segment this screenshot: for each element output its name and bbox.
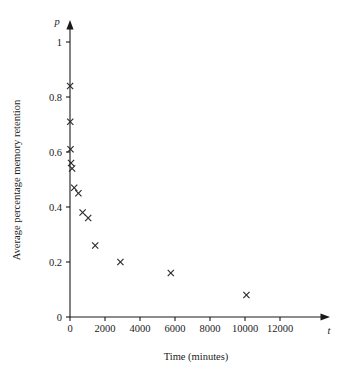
y-tick-label: 0.4 [49,202,63,213]
scatter-plot: p t 00.20.40.60.81 020004000600080001000… [0,0,339,376]
x-tick-label: 4000 [130,323,151,334]
y-axis-ticks: 00.20.40.60.81 [49,37,70,323]
data-point [117,259,123,265]
data-point-group [67,83,250,298]
data-point [243,292,249,298]
data-point [71,185,77,191]
y-tick-label: 0.8 [49,92,62,103]
x-tick-label: 8000 [200,323,221,334]
data-point [68,160,74,166]
data-point [75,190,81,196]
y-tick-label: 0.2 [49,257,62,268]
data-point [168,270,174,276]
y-tick-label: 0 [57,312,62,323]
x-tick-label: 2000 [95,323,116,334]
x-axis-title: Time (minutes) [164,351,229,363]
x-axis-symbol: t [328,325,332,336]
x-tick-label: 12000 [267,323,293,334]
chart-figure: p t 00.20.40.60.81 020004000600080001000… [0,0,339,376]
data-point [85,215,91,221]
x-axis-arrowhead [321,313,331,320]
x-axis-ticks: 020004000600080001000012000 [67,317,293,334]
y-tick-label: 1 [57,37,62,48]
x-tick-label: 10000 [232,323,258,334]
y-axis-arrowhead [66,20,73,30]
y-axis-symbol: p [53,16,59,27]
x-tick-label: 0 [67,323,72,334]
data-point [80,209,86,215]
y-tick-label: 0.6 [49,147,62,158]
y-axis-title: Average percentage memory retention [11,99,22,260]
x-tick-label: 6000 [165,323,186,334]
data-point [92,242,98,248]
